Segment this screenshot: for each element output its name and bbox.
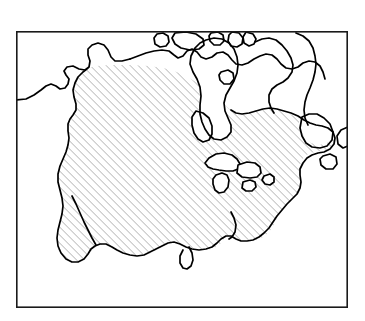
map-figure-page [0, 0, 365, 321]
jamaica-island [213, 173, 229, 193]
north-america-range-map [0, 0, 365, 321]
hispaniola-island [237, 162, 261, 178]
puerto-rico-island [242, 180, 256, 191]
lesser-antilles-island [262, 174, 274, 185]
map-svg [0, 0, 365, 321]
